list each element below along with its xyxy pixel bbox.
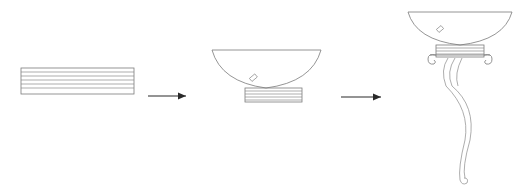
- stage-1-stacked-plates: [21, 68, 134, 94]
- lamp-assembly-diagram: [0, 0, 528, 190]
- stage-3-bowl-bracket-stem: [408, 12, 512, 184]
- stage-2-bowl-on-plates: [212, 50, 321, 102]
